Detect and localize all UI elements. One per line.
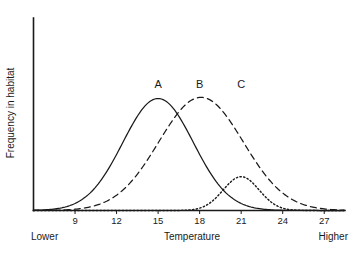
curve-c — [34, 177, 345, 211]
axis-end-label-lower: Lower — [31, 231, 59, 242]
x-axis-tick-label: 9 — [72, 215, 77, 226]
y-axis-title: Frequency in habitat — [5, 67, 16, 158]
axis-end-label-higher: Higher — [319, 231, 349, 242]
x-axis-tick-label: 12 — [111, 215, 122, 226]
curve-b — [34, 97, 345, 210]
x-axis-tick-label: 24 — [277, 215, 288, 226]
curve-a — [34, 99, 345, 211]
curve-label-c: C — [237, 78, 245, 90]
x-axis-tick-label: 15 — [153, 215, 164, 226]
x-axis-title: Temperature — [164, 231, 221, 242]
curve-labels-group: ABC — [154, 78, 245, 90]
curves-group — [34, 97, 345, 210]
x-axis-tick-label: 21 — [236, 215, 247, 226]
curve-label-b: B — [196, 78, 203, 90]
chart-figure: 9121518212427 ABC Frequency in habitat T… — [0, 0, 357, 253]
x-axis-tick-label: 27 — [319, 215, 330, 226]
x-axis-tick-labels: 9121518212427 — [72, 215, 329, 226]
curve-label-a: A — [154, 78, 162, 90]
axes-group — [34, 18, 346, 211]
frequency-temperature-chart: 9121518212427 ABC Frequency in habitat T… — [0, 0, 357, 253]
x-axis-tick-label: 18 — [194, 215, 205, 226]
